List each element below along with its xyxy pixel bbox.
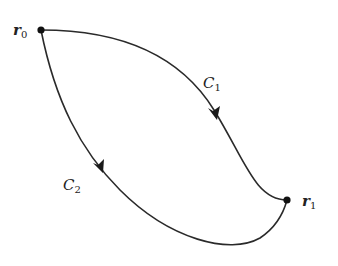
label-r0-subscript: 0 xyxy=(21,29,27,40)
label-c1: C1 xyxy=(203,76,221,93)
label-r0-base: r xyxy=(13,21,21,39)
label-c1-subscript: 1 xyxy=(214,82,220,93)
label-c2-subscript: 2 xyxy=(74,184,80,195)
point-r1 xyxy=(283,196,290,203)
label-c2-base: C xyxy=(63,176,74,194)
label-r1: r1 xyxy=(302,194,316,211)
curve-c2 xyxy=(41,30,287,245)
curve-c1 xyxy=(41,30,287,200)
label-r0: r0 xyxy=(13,23,27,40)
point-r0 xyxy=(37,26,44,33)
label-c1-base: C xyxy=(203,74,214,92)
path-diagram xyxy=(0,0,338,266)
label-c2: C2 xyxy=(63,178,81,195)
label-r1-base: r xyxy=(302,192,310,210)
label-r1-subscript: 1 xyxy=(310,200,316,211)
